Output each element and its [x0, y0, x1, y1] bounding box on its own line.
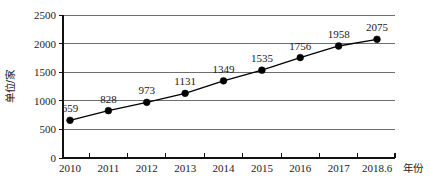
y-axis-title: 单位/家 — [4, 69, 16, 103]
data-point-2014[interactable] — [220, 77, 227, 84]
x-tick-label-2018.6: 2018.6 — [362, 162, 393, 174]
data-label-2017: 1958 — [328, 28, 351, 40]
x-tick-label-2015: 2015 — [251, 162, 274, 174]
y-tick-label-1500: 1500 — [34, 66, 57, 78]
x-axis-title: 年份 — [403, 162, 424, 174]
data-label-2012: 973 — [139, 84, 156, 96]
x-tick-label-2016: 2016 — [289, 162, 312, 174]
data-label-2013: 1131 — [174, 75, 196, 87]
y-tick-label-2500: 2500 — [34, 9, 57, 21]
data-label-2010: 659 — [62, 102, 79, 114]
line-chart: 0500100015002000250020102011201220132014… — [0, 0, 431, 193]
data-point-2018.6[interactable] — [374, 36, 381, 43]
data-label-2014: 1349 — [213, 63, 236, 75]
x-tick-label-2011: 2011 — [98, 162, 120, 174]
data-point-2011[interactable] — [105, 107, 112, 114]
data-point-2017[interactable] — [335, 43, 342, 50]
y-tick-label-0: 0 — [51, 152, 57, 164]
data-label-2015: 1535 — [251, 52, 274, 64]
series-markers — [67, 36, 381, 124]
data-point-2010[interactable] — [67, 117, 74, 124]
y-tick-label-2000: 2000 — [34, 38, 57, 50]
y-tick-label-500: 500 — [40, 123, 57, 135]
data-label-2011: 828 — [100, 93, 117, 105]
x-tick-label-2012: 2012 — [136, 162, 158, 174]
data-point-2012[interactable] — [143, 99, 150, 106]
y-axis-ticks: 05001000150020002500 — [34, 9, 63, 164]
x-tick-label-2017: 2017 — [328, 162, 351, 174]
y-tick-label-1000: 1000 — [34, 95, 57, 107]
chart-container: 0500100015002000250020102011201220132014… — [0, 0, 431, 193]
data-label-2018.6: 2075 — [366, 21, 389, 33]
x-axis-ticks: 201020112012201320142015201620172018.6 — [59, 153, 393, 174]
data-point-2013[interactable] — [182, 90, 189, 97]
data-point-2016[interactable] — [297, 54, 304, 61]
x-tick-label-2014: 2014 — [213, 162, 236, 174]
x-tick-label-2010: 2010 — [59, 162, 82, 174]
data-label-2016: 1756 — [289, 40, 312, 52]
x-tick-label-2013: 2013 — [174, 162, 197, 174]
data-point-2015[interactable] — [258, 67, 265, 74]
